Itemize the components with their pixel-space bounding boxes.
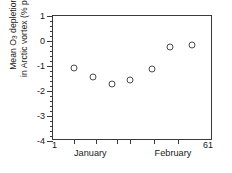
y-axis-minor-tick [50,51,54,52]
y-axis-title-post: depletion rate [8,0,18,35]
y-axis-minor-tick [50,101,54,102]
data-point [167,43,174,50]
data-point [108,80,115,87]
x-axis-tick [130,139,131,144]
y-axis-tick-label: -4 [37,136,45,146]
y-axis-minor-tick [50,46,54,47]
y-axis-title-subscript: 3 [11,35,18,39]
y-axis-minor-tick [50,81,54,82]
y-axis-minor-tick [50,21,54,22]
data-point [90,74,97,81]
y-axis-minor-tick [50,56,54,57]
y-axis-title-line1: Mean O3 depletion rate [8,0,19,70]
y-axis-title-line2: in Arctic vortex (% per day) [19,0,30,77]
y-axis-minor-tick [50,106,54,107]
y-axis-title-pre: Mean O [8,39,18,70]
y-axis-minor-tick [50,126,54,127]
y-axis-minor-tick [50,96,54,97]
y-axis-minor-tick [50,121,54,122]
y-axis-minor-tick [50,111,54,112]
x-axis-month-label: February [155,148,192,158]
data-point [127,76,134,83]
y-axis-tick-label: -1 [37,61,45,71]
y-axis-tick-label: 0 [40,36,45,46]
y-axis-major-tick [47,66,53,67]
data-point [188,41,195,48]
y-axis-major-tick [47,41,53,42]
y-axis-major-tick [47,91,53,92]
data-point [71,65,78,72]
y-axis-minor-tick [50,86,54,87]
y-axis-tick-label: -2 [37,86,45,96]
y-axis-minor-tick [50,71,54,72]
x-axis-start-label: 1 [52,140,57,150]
x-axis-tick [96,139,97,144]
data-point [148,66,155,73]
y-axis-major-tick [47,116,53,117]
x-axis-month-label: January [74,148,107,158]
y-axis-title: Mean O3 depletion rate in Arctic vortex … [4,0,34,90]
x-axis-tick [74,139,75,144]
x-axis-tick [178,139,179,144]
plot-area: 10-1-2-3-4 JanuaryFebruary 1 61 [52,15,212,140]
chart-figure: Mean O3 depletion rate in Arctic vortex … [0,0,232,173]
y-axis-tick-label: 1 [40,11,45,21]
y-axis-minor-tick [50,131,54,132]
y-axis-minor-tick [50,31,54,32]
y-axis-minor-tick [50,36,54,37]
y-axis-minor-tick [50,136,54,137]
y-axis-minor-tick [50,61,54,62]
y-axis-minor-tick [50,76,54,77]
y-axis-major-tick [47,16,53,17]
y-axis-minor-tick [50,26,54,27]
x-axis-end-label: 61 [203,140,213,150]
y-axis-tick-label: -3 [37,111,45,121]
x-axis-tick [117,139,118,144]
x-axis-tick [154,139,155,144]
